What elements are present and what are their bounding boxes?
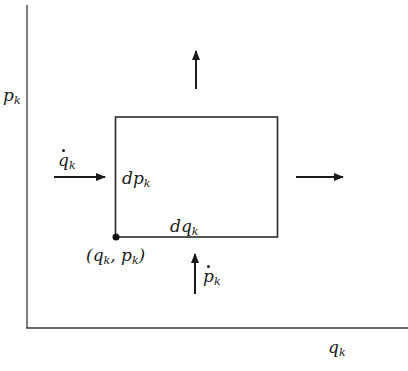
width-label-var: dq <box>170 216 192 236</box>
height-label-sub: k <box>144 177 151 190</box>
height-label-var: dp <box>122 168 144 188</box>
corner-point-dot <box>113 234 120 241</box>
x-axis-label-sub: k <box>339 346 346 359</box>
p-dot-sub: k <box>214 275 221 288</box>
q-dot-label: qk <box>58 152 76 171</box>
x-axis-label-var: q <box>328 337 339 357</box>
p-dot-label: pk <box>203 268 221 287</box>
p-dot-var: p <box>203 268 214 285</box>
corner-sep: , <box>110 245 121 265</box>
width-label-sub: k <box>192 225 199 238</box>
y-axis-label-var: p <box>3 85 14 105</box>
x-axis-label: qk <box>328 339 346 358</box>
y-axis-label: pk <box>3 87 21 106</box>
q-dot-sub: k <box>69 159 76 172</box>
corner-q-var: q <box>93 245 104 265</box>
paren-close: ) <box>139 245 146 265</box>
width-label-dq: dqk <box>170 218 198 237</box>
height-label-dp: dpk <box>122 170 150 189</box>
corner-point-label: (qk, pk) <box>86 247 145 266</box>
corner-p-var: p <box>121 245 132 265</box>
phase-space-diagram <box>0 0 408 371</box>
corner-p-sub: k <box>132 254 139 267</box>
q-dot-var: q <box>58 152 69 169</box>
paren-open: ( <box>86 245 93 265</box>
y-axis-label-sub: k <box>14 94 21 107</box>
